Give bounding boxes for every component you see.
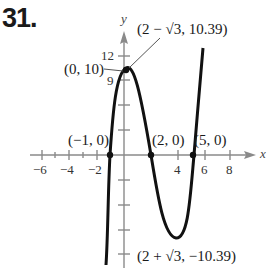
zero-label-5: (5, 0) bbox=[194, 132, 227, 149]
x-axis bbox=[30, 150, 248, 160]
y-tick-label: 9 bbox=[107, 73, 114, 89]
x-tick-label: −4 bbox=[60, 162, 74, 178]
plot-area bbox=[0, 0, 276, 279]
max-point-label: (2 − √3, 10.39) bbox=[137, 21, 227, 38]
y-axis bbox=[118, 38, 130, 268]
zero-label-2: (2, 0) bbox=[152, 132, 185, 149]
min-point-label: (2 + √3, −10.39) bbox=[137, 248, 236, 265]
x-tick-label: 8 bbox=[226, 162, 233, 178]
x-tick-label: 4 bbox=[174, 162, 181, 178]
x-axis-label: x bbox=[260, 146, 266, 162]
x-tick-label: −6 bbox=[33, 162, 47, 178]
y-intercept-label: (0, 10) bbox=[64, 61, 104, 78]
yint-leader-line bbox=[104, 69, 123, 71]
max-leader-line bbox=[129, 38, 160, 68]
x-tick-label: −2 bbox=[88, 162, 102, 178]
x-tick-label: 6 bbox=[201, 162, 208, 178]
zero-label-neg1: (−1, 0) bbox=[68, 132, 109, 149]
graph-figure: 31. bbox=[0, 0, 276, 279]
y-axis-label: y bbox=[121, 11, 127, 27]
